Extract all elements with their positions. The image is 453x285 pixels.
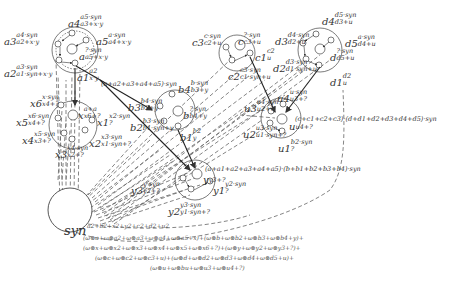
node-label-d4: d4d5·synd3+u	[322, 12, 356, 28]
formula-exponent: a2+b2+x2+y2+c2+d2+u2	[87, 222, 169, 229]
node-label-b1: b1b2y	[180, 128, 201, 144]
node-label-a2: a2a3·syna1·syn+x·y	[4, 64, 52, 80]
node-label-x4: x4x5·synx3+?	[22, 131, 55, 147]
node-label-c: c?·sync3+u	[238, 32, 261, 48]
node-label-y2: y2y3·syny1·syn+?	[168, 202, 210, 218]
node-label-d1: d1d2u	[330, 73, 351, 89]
edge-label-ab-to-y: (a+a1+a2+a3+a4+a5)·(b+b1+b2+b3+b4)·syn	[205, 166, 361, 173]
node-label-u3: u3u4·synu2+?	[244, 99, 278, 115]
node-label-b3: b3b4·synb2+y	[128, 98, 162, 114]
edge-label-cd-to-u: (c+c1+c2+c3)·(d+d1+d2+d3+d4+d5)·syn	[295, 116, 437, 123]
node-label-c1: c1c2u	[255, 48, 275, 64]
node-label-a1: a1a2x·y	[77, 68, 99, 84]
formula-line-3: (ω⊗c+ω⊗c2+ω⊗c3+u)+(ω⊗d+ω⊗d2+ω⊗d3+ω⊗d4+ω⊗…	[95, 254, 294, 261]
node-label-c2: c2c3·sync1·syn+u	[228, 67, 271, 83]
node-label-b2: b2b3·synb1·syn+y	[130, 118, 173, 134]
node-label-y3: y3y·syny2+?	[131, 181, 160, 197]
formula-line-4: (ω⊗u+ω⊗bu+ω⊗u3+ω⊗u4+?)	[150, 264, 245, 271]
node-label-x6: x6x·synx4+?	[30, 94, 59, 110]
node-label-x5: x5x6·synx4+?	[16, 113, 49, 129]
diagram-graphics	[0, 0, 453, 285]
formula-line-1: (ω⊗a+ω⊗a2+ω⊗a3+ω⊗a4+ω⊗a5+x)+(ω⊗b+ω⊗b2+ω⊗…	[83, 234, 304, 241]
node-label-a: a?·syna5+x·y	[79, 47, 108, 63]
edge-label-a-to-b: (a+a2+a3+a4+a5)·syn	[101, 81, 177, 88]
node-label-y1: y1y2·syn?	[213, 181, 246, 197]
node-label-c3: c3c·sync2+u	[192, 33, 221, 49]
node-label-x3: x3x4·synx2+?	[55, 145, 88, 161]
node-label-b: b?·synb4+y	[183, 106, 207, 122]
node-label-u4: u4u·synu3+?	[277, 89, 307, 105]
node-label-d3: d3d4·synd2+u	[275, 32, 309, 48]
node-label-x2: x2x3·synx1·syn+?	[89, 134, 131, 150]
node-label-b4: b4b·synb3+y	[178, 80, 208, 96]
node-label-d: d?·synd5+u	[330, 48, 354, 64]
diagram-canvas: a4a5·syna3+x·y a3a4·syna2+x·y a5a·syna4+…	[0, 0, 453, 285]
node-label-a3: a3a4·syna2+x·y	[4, 32, 39, 48]
node-label-a4: a4a5·syna3+x·y	[68, 14, 103, 30]
node-label-x1: x1x2·syn?	[97, 113, 130, 129]
node-label-u1: u1b2·syn?	[278, 139, 312, 155]
node-label-d2: d2d3·synd1·syn+u	[273, 59, 317, 75]
formula-line-2: (ω⊗x+ω⊗x2+ω⊗x3+ω⊗x4+ω⊗x5+ω⊗x6+?)+(ω⊗y+ω⊗…	[83, 244, 301, 251]
